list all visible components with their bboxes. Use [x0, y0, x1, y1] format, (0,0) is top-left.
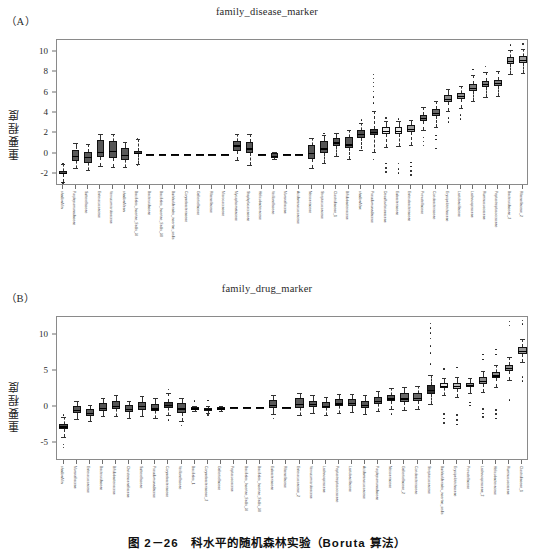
whisker-upper	[509, 357, 510, 365]
whisker-lower	[483, 384, 484, 392]
panel-a-plot-inner	[57, 40, 527, 184]
x-tick-mark	[211, 185, 212, 189]
whisker-cap-lower	[166, 415, 171, 416]
box-plot-median	[345, 144, 353, 145]
x-tick-label: Lachnospiraceae_2	[480, 466, 484, 496]
box-plot-median	[361, 405, 369, 406]
x-tick-mark	[325, 460, 326, 464]
box-plot-median	[256, 407, 264, 408]
whisker-lower	[182, 413, 183, 421]
box-plot-box[interactable]	[320, 141, 328, 152]
x-tick-mark	[186, 185, 187, 189]
whisker-cap-upper	[347, 130, 351, 131]
box-plot-outlier	[423, 137, 425, 139]
x-tick-label: Helicobacteraceae	[258, 191, 262, 220]
x-tick-label: Enterococcaceae_2	[296, 466, 300, 497]
x-tick-mark	[236, 185, 237, 189]
box-plot-outlier	[495, 413, 497, 415]
box-plot-outlier	[391, 413, 393, 415]
x-tick-label: Neisseriaceae	[388, 466, 392, 488]
x-tick-label: Eubacteriaceae	[270, 466, 274, 490]
whisker-lower	[361, 138, 362, 149]
whisker-lower	[349, 148, 350, 158]
whisker-cap-lower	[376, 411, 381, 412]
y-tick-mark	[52, 91, 56, 92]
x-tick-mark	[224, 185, 225, 189]
y-tick-mark	[52, 334, 56, 335]
x-tick-mark	[115, 460, 116, 464]
whisker-lower	[336, 146, 337, 155]
box-plot-box[interactable]	[345, 137, 353, 148]
whisker-cap-lower	[442, 395, 447, 396]
whisker-lower	[457, 389, 458, 397]
whisker-cap-lower	[86, 170, 90, 171]
whisker-lower	[113, 158, 114, 167]
x-tick-mark	[62, 185, 63, 189]
whisker-cap-lower	[446, 111, 450, 112]
box-plot-outlier	[430, 352, 432, 354]
box-plot-box[interactable]	[269, 400, 277, 408]
box-plot-median	[59, 426, 67, 427]
whisker-cap-lower	[483, 97, 487, 98]
box-plot-median	[159, 154, 167, 155]
y-tick-mark	[52, 406, 56, 407]
whisker-upper	[168, 393, 169, 402]
whisker-cap-upper	[61, 417, 66, 418]
x-tick-mark	[76, 460, 77, 464]
whisker-cap-lower	[363, 414, 368, 415]
panel-a-plot-area[interactable]	[56, 39, 528, 185]
box-plot-outlier	[448, 121, 450, 123]
x-tick-label: Clostridiaceae_1	[333, 191, 337, 217]
whisker-lower	[509, 371, 510, 380]
box-plot-box[interactable]	[109, 141, 117, 157]
x-tick-label: Rikenellaceae	[209, 191, 213, 213]
whisker-cap-lower	[507, 380, 512, 381]
panel-a-ylabel: 重要程度	[6, 70, 22, 160]
whisker-cap-upper	[140, 396, 145, 397]
whisker-cap-upper	[434, 101, 438, 102]
whisker-cap-lower	[520, 362, 525, 363]
x-tick-mark	[435, 185, 436, 189]
x-tick-mark	[141, 460, 142, 464]
box-plot-median	[246, 148, 254, 149]
box-plot-outlier	[430, 345, 432, 347]
box-plot-median	[387, 398, 395, 399]
box-plot-box[interactable]	[97, 140, 105, 156]
whisker-cap-upper	[520, 339, 525, 340]
box-plot-outlier	[373, 159, 375, 161]
x-tick-mark	[199, 185, 200, 189]
x-tick-label: Gellertiellaceae_2	[401, 466, 405, 494]
box-plot-median	[407, 129, 415, 130]
x-tick-label: Acidaminococcaceae	[362, 466, 366, 499]
panel-b-plot-area[interactable]	[56, 316, 528, 460]
x-tick-mark	[495, 460, 496, 464]
x-tick-label: Enterobacteriaceae	[407, 191, 411, 221]
x-tick-label: Streptococcaceae	[427, 466, 431, 494]
whisker-upper	[473, 75, 474, 83]
whisker-cap-lower	[235, 160, 239, 161]
box-plot-median	[413, 398, 421, 399]
whisker-cap-upper	[334, 133, 338, 134]
x-tick-label: shadowMin	[60, 191, 64, 209]
x-tick-mark	[124, 185, 125, 189]
whisker-lower	[431, 394, 432, 404]
box-plot-median	[121, 155, 129, 156]
x-tick-label: Verrucomicrobiaceae	[109, 191, 113, 224]
whisker-cap-upper	[127, 401, 132, 402]
box-plot-outlier	[168, 389, 170, 391]
x-tick-label: Verrucomicrobiaceae	[309, 466, 313, 499]
x-tick-mark	[233, 460, 234, 464]
x-tick-mark	[460, 185, 461, 189]
box-plot-box[interactable]	[246, 142, 254, 152]
box-plot-outlier	[207, 414, 209, 416]
x-tick-mark	[443, 460, 444, 464]
whisker-lower	[76, 161, 77, 168]
y-tick-label: 5	[26, 365, 48, 375]
whisker-upper	[510, 50, 511, 57]
box-plot-outlier	[373, 82, 375, 84]
x-tick-label: Bacillales_Incertae_Sedis_XII	[257, 466, 261, 512]
x-tick-mark	[521, 460, 522, 464]
whisker-cap-lower	[101, 416, 106, 417]
whisker-upper	[496, 365, 497, 372]
whisker-cap-lower	[434, 127, 438, 128]
